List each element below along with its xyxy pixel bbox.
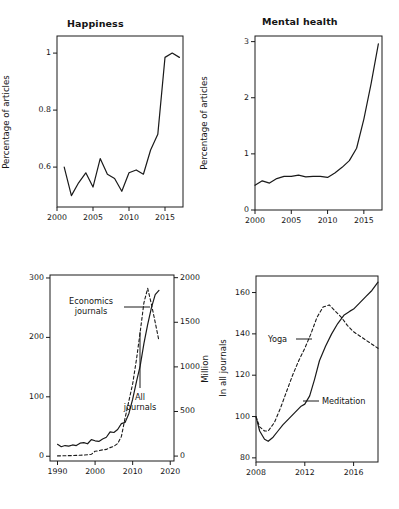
plot-frame <box>256 276 378 462</box>
chart-canvas-yoga-meditation <box>0 0 399 509</box>
chart-panel-yoga-meditation: 20082012201680100120140160MillionYogaMed… <box>0 0 399 509</box>
multi-panel-figure: Happiness20002005201020150.60.81Percenta… <box>0 0 399 509</box>
series-line-yoga <box>256 305 378 431</box>
annotation-meditation: Meditation <box>322 396 382 406</box>
y-tick-label: 80 <box>212 453 250 462</box>
y-tick-label: 100 <box>212 412 250 421</box>
annotation-line: Meditation <box>322 396 382 406</box>
y-axis-label: Million <box>200 355 210 383</box>
x-tick-label: 2012 <box>287 468 323 477</box>
series-line-meditation <box>256 282 378 441</box>
y-tick-label: 160 <box>212 288 250 297</box>
y-tick-label: 140 <box>212 329 250 338</box>
y-tick-label: 120 <box>212 370 250 379</box>
annotation-line: Yoga <box>268 334 294 344</box>
annotation-yoga: Yoga <box>268 334 294 344</box>
x-tick-label: 2016 <box>336 468 372 477</box>
x-tick-label: 2008 <box>238 468 274 477</box>
